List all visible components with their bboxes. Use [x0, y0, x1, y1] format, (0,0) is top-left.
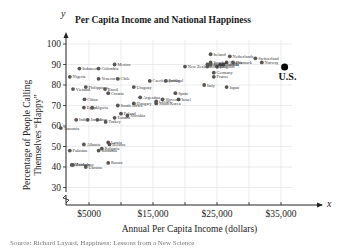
x-arrow-icon: [317, 203, 323, 208]
gridlines: [66, 40, 292, 205]
point-marker: [116, 104, 120, 108]
point-label: Greece: [159, 99, 171, 104]
point-marker: [97, 67, 101, 71]
x-tick-label: $5000: [77, 209, 101, 219]
data-point: South Africa: [116, 103, 143, 108]
point-marker: [82, 143, 86, 147]
point-label: Portugal: [169, 78, 184, 83]
point-marker: [78, 67, 82, 71]
data-point: Pakistan: [68, 148, 88, 153]
data-point: Uruguay: [132, 85, 153, 90]
y-tick-label: 90: [52, 60, 62, 70]
point-marker: [209, 63, 213, 67]
point-marker: [103, 87, 107, 91]
y-tick-label: 60: [52, 121, 62, 131]
point-label: Germany: [217, 70, 234, 75]
data-point: Netherlands: [228, 54, 254, 59]
point-marker: [260, 61, 264, 65]
point-marker: [70, 163, 74, 167]
point-label: Albania: [87, 142, 101, 147]
point-label: Argentina: [143, 95, 160, 100]
point-label: Norway: [265, 60, 280, 65]
point-marker: [90, 106, 94, 110]
y-tick-label: 70: [52, 101, 62, 111]
data-point: Indonesia: [78, 66, 99, 71]
point-marker: [68, 149, 72, 153]
point-label: Pakistan: [73, 148, 88, 153]
y-tick-label: 80: [52, 80, 62, 90]
point-label: Indonesia: [82, 66, 99, 71]
point-label: Netherlands: [233, 54, 254, 59]
data-point: Germany: [212, 70, 234, 75]
point-label: Nigeria: [73, 74, 86, 79]
data-point: Chile: [116, 76, 130, 81]
point-label: Colombia: [101, 66, 118, 71]
point-marker: [86, 118, 90, 122]
point-label: Russia: [111, 160, 123, 165]
data-point: Spain: [174, 91, 189, 96]
point-label: Mexico: [117, 62, 130, 67]
point-marker: [148, 79, 152, 83]
point-marker: [138, 95, 142, 99]
x-tick-label: $35,000: [266, 209, 297, 219]
point-marker: [84, 85, 88, 89]
point-marker: [100, 147, 104, 151]
point-marker: [97, 77, 101, 81]
point-label: Britain: [213, 62, 226, 67]
point-marker: [228, 54, 232, 58]
point-marker: [68, 75, 72, 79]
data-point: Italy: [202, 83, 215, 88]
point-label: Moldova: [75, 162, 91, 167]
point-label: Italy: [207, 83, 216, 88]
point-marker: [106, 161, 110, 165]
point-marker: [225, 85, 229, 89]
point-marker: [132, 85, 136, 89]
point-marker: [71, 87, 75, 91]
data-point: Venezuela: [97, 76, 119, 81]
y-arrow-icon: [64, 32, 69, 38]
point-marker: [74, 118, 78, 122]
y-tick-label: 50: [52, 142, 62, 152]
data-points: NigeriaVietnamIndonesiaColombiaVenezuela…: [59, 52, 280, 170]
point-marker: [154, 100, 158, 104]
point-label: China: [87, 97, 97, 102]
point-label: Algeria: [95, 105, 108, 110]
data-point: Britain: [209, 62, 226, 67]
scatter-plot: 10090807060504030$5000$15,000$25,000$35,…: [0, 0, 339, 248]
x-tick-label: $25,000: [202, 209, 233, 219]
us-label: U.S.: [279, 71, 297, 82]
point-marker: [254, 56, 258, 60]
data-point: Tanzania: [59, 126, 79, 131]
point-marker: [104, 120, 108, 124]
y-tick-label: 40: [52, 162, 62, 172]
point-label: Spain: [178, 91, 189, 96]
data-point: Greece: [154, 99, 171, 104]
point-label: Ireland: [213, 52, 226, 57]
y-tick-label: 30: [52, 183, 62, 193]
point-marker: [106, 91, 110, 95]
point-marker: [174, 91, 178, 95]
data-point: Croatia: [106, 91, 123, 96]
point-marker: [113, 116, 117, 120]
point-marker: [83, 97, 87, 101]
point-marker: [212, 75, 216, 79]
point-marker: [113, 63, 117, 67]
point-label: Chile: [121, 76, 130, 81]
point-marker: [206, 65, 210, 69]
data-point: China: [83, 97, 98, 102]
us-highlight: U.S.: [279, 63, 297, 82]
y-tick-label: 100: [47, 39, 62, 49]
point-marker: [97, 149, 101, 153]
point-marker: [209, 52, 213, 56]
point-marker: [82, 106, 86, 110]
data-point: Russia: [106, 160, 122, 165]
us-marker: [281, 63, 288, 70]
point-label: South Africa: [121, 103, 143, 108]
point-marker: [183, 65, 187, 69]
x-tick-label: $15,000: [138, 209, 169, 219]
point-label: Israel: [181, 97, 191, 102]
point-label: Estonia: [117, 115, 130, 120]
point-label: Tanzania: [64, 126, 80, 131]
point-marker: [164, 79, 168, 83]
point-label: Uruguay: [137, 85, 153, 90]
